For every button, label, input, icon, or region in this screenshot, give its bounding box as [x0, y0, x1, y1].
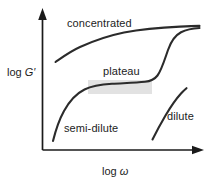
- figure-container: concentrated plateau semi-dilute dilute …: [0, 0, 217, 183]
- x-axis-label-prefix: log: [102, 165, 120, 177]
- annotation-plateau: plateau: [103, 66, 140, 77]
- x-axis-label-symbol: ω: [120, 165, 129, 177]
- annotation-semi-dilute: semi-dilute: [64, 123, 118, 134]
- x-axis-arrow-icon: [192, 146, 204, 154]
- curve-concentrated: [56, 26, 200, 62]
- annotation-concentrated: concentrated: [67, 18, 132, 29]
- y-axis-label: log G′: [7, 67, 35, 78]
- x-axis-label: log ω: [102, 166, 128, 177]
- y-axis-arrow-icon: [38, 8, 47, 20]
- y-axis-label-prefix: log: [7, 66, 25, 78]
- annotation-dilute: dilute: [167, 111, 194, 122]
- y-axis-label-prime: ′: [33, 66, 35, 78]
